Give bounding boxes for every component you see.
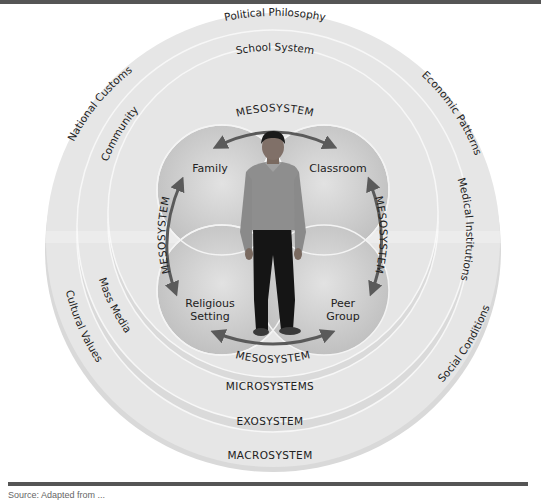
label-group: Group (326, 310, 360, 323)
source-caption: Source: Adapted from ... (8, 490, 105, 500)
bottom-rule (8, 482, 528, 486)
label-classroom: Classroom (309, 162, 366, 175)
label-microsystems: MICROSYSTEMS (226, 380, 314, 392)
label-peer: Peer (331, 297, 356, 310)
label-religious: Religious (185, 297, 235, 310)
label-setting: Setting (190, 310, 229, 323)
label-family: Family (192, 162, 228, 175)
label-exosystem: EXOSYSTEM (237, 415, 304, 427)
label-macrosystem: MACROSYSTEM (227, 449, 312, 461)
